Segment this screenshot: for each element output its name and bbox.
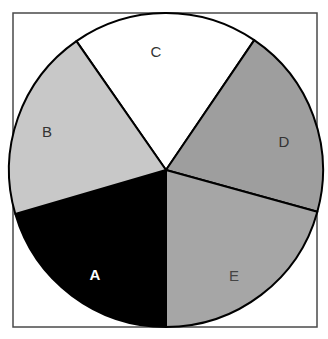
slice-label-e: E — [229, 267, 239, 284]
slice-label-c: C — [151, 43, 162, 60]
slice-label-a: A — [90, 266, 101, 283]
pie-slices — [9, 13, 323, 327]
slice-label-d: D — [279, 133, 290, 150]
slice-label-b: B — [42, 123, 52, 140]
pie-chart: CDEAB — [0, 0, 328, 339]
